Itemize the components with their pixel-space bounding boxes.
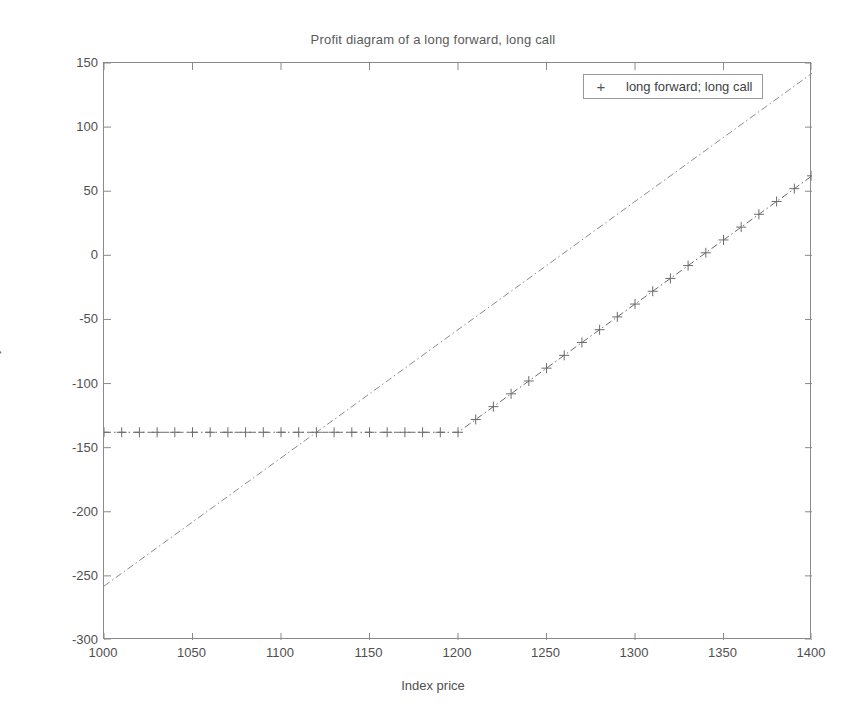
y-tick-label: -150 [38,439,98,454]
y-tick-label: -100 [38,375,98,390]
x-tick-label: 1000 [63,645,143,660]
figure: Profit diagram of a long forward, long c… [0,0,866,720]
plot-area [103,62,811,639]
x-tick-label: 1150 [329,645,409,660]
y-tick-label: 100 [38,119,98,134]
plot-svg [104,63,812,640]
plus-marker-icon: + [590,80,612,93]
series-line-0 [104,73,812,586]
y-tick-label: 50 [38,183,98,198]
x-tick-label: 1400 [771,645,851,660]
y-axis-tick-labels: 150100500-50-100-150-200-250-300 [30,0,98,720]
x-axis-label: Index price [0,678,866,693]
series-line-1 [104,176,812,432]
chart-title: Profit diagram of a long forward, long c… [0,32,866,47]
legend-label-0: long forward; long call [626,79,752,94]
y-axis-label: Payoff [0,333,1,370]
x-tick-label: 1350 [683,645,763,660]
y-tick-label: -50 [38,311,98,326]
y-tick-label: -200 [38,503,98,518]
x-axis-tick-labels: 100010501100115012001250130013501400 [0,645,866,671]
x-tick-label: 1100 [240,645,320,660]
y-tick-label: 150 [38,55,98,70]
x-tick-label: 1300 [594,645,674,660]
x-tick-label: 1250 [506,645,586,660]
y-tick-label: 0 [38,247,98,262]
x-tick-label: 1050 [152,645,232,660]
x-tick-label: 1200 [417,645,497,660]
legend: + long forward; long call [583,74,763,99]
y-tick-label: -250 [38,567,98,582]
